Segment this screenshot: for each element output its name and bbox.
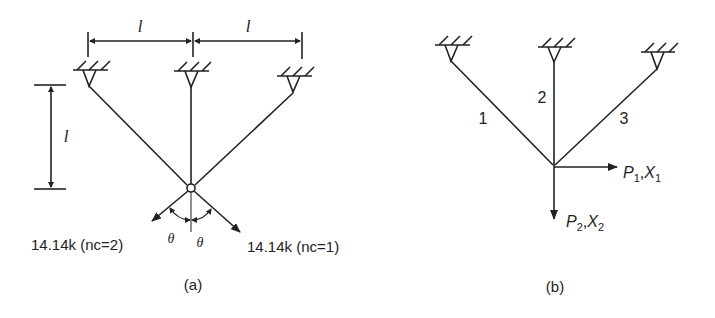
angle-label-left: θ [168, 231, 175, 246]
angle-arc-left [170, 208, 190, 220]
caption-a: (a) [184, 276, 202, 293]
pin-support-left [73, 61, 110, 86]
force-arrow-left [152, 191, 188, 221]
dim-label-left: l [138, 17, 143, 36]
pin-support-middle [174, 62, 211, 87]
pin-support-left-b [435, 36, 472, 61]
dof-label-2: P2,X2 [566, 213, 604, 233]
panel-a [34, 32, 314, 232]
member-1 [451, 61, 553, 165]
angle-label-right: θ [197, 235, 204, 250]
truss-figure: l l l θ θ 14.14k (nc=2) 14.14k (nc=1) (a… [0, 0, 715, 318]
member-3 [555, 69, 657, 165]
force-arrow-right [194, 191, 240, 232]
member-label-1: 1 [479, 110, 488, 127]
vertical-dimension [34, 85, 66, 189]
member-label-2: 2 [538, 89, 547, 106]
pin-support-right [277, 67, 314, 92]
dim-label-vertical: l [64, 127, 69, 146]
member-left [89, 86, 187, 185]
load-label-right: 14.14k (nc=1) [247, 238, 339, 255]
dof-label-1: P1,X1 [623, 164, 661, 184]
pin-support-right-b [641, 43, 678, 69]
panel-b [435, 36, 678, 219]
member-right [195, 93, 293, 185]
angle-arc-right [192, 209, 211, 220]
dim-label-right: l [246, 17, 251, 36]
node-joint [187, 184, 195, 192]
pin-support-middle-b [538, 38, 575, 62]
member-label-3: 3 [620, 110, 629, 127]
load-label-left: 14.14k (nc=2) [31, 236, 123, 253]
horizontal-dimension [88, 32, 302, 59]
caption-b: (b) [546, 278, 564, 295]
